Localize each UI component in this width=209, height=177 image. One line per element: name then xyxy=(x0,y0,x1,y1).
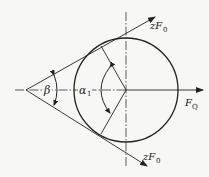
svg-text:0: 0 xyxy=(156,157,160,165)
resultant-force-label: F Q xyxy=(184,97,198,111)
pulley-force-diagram: zF 0 zF 0 F Q β α 1 xyxy=(0,0,209,177)
svg-text:1: 1 xyxy=(87,90,91,98)
upper-force-label: zF 0 xyxy=(149,20,167,34)
svg-text:zF: zF xyxy=(142,151,156,162)
svg-text:β: β xyxy=(43,84,50,97)
upper-radius xyxy=(101,46,126,90)
alpha-label: α 1 xyxy=(78,83,92,98)
lower-radius xyxy=(101,90,126,134)
svg-text:α: α xyxy=(79,84,87,97)
beta-label: β xyxy=(43,83,52,97)
svg-text:Q: Q xyxy=(192,103,198,111)
lower-force-label: zF 0 xyxy=(142,151,160,165)
svg-text:zF: zF xyxy=(149,20,163,31)
lower-belt-span-arrow xyxy=(26,90,147,166)
svg-text:0: 0 xyxy=(163,26,167,34)
upper-belt-span-arrow xyxy=(26,17,155,90)
